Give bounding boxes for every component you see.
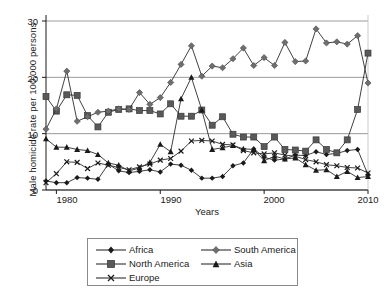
series-asia <box>43 74 371 180</box>
legend-label-south-america: South America <box>234 244 296 255</box>
south-america-series-icon <box>201 244 231 256</box>
legend-item-europe[interactable]: Europe <box>96 271 160 284</box>
chart-root: Male homicide rate per 100,000 persons Y… <box>0 0 384 292</box>
legend-label-africa: Africa <box>129 244 153 255</box>
asia-series-icon <box>201 258 231 270</box>
legend-item-africa[interactable]: Africa <box>96 243 153 256</box>
legend-item-north-america[interactable]: North America <box>96 257 189 270</box>
africa-series-icon <box>96 244 126 256</box>
europe-series-icon <box>96 272 126 284</box>
legend-item-south-america[interactable]: South America <box>201 243 296 256</box>
legend: Africa North America Europe South Americ… <box>87 238 298 286</box>
series-south-america <box>43 26 371 132</box>
north-america-series-icon <box>96 258 126 270</box>
legend-label-europe: Europe <box>129 272 160 283</box>
series-north-america <box>43 50 371 156</box>
legend-item-asia[interactable]: Asia <box>201 257 252 270</box>
legend-label-north-america: North America <box>129 258 189 269</box>
legend-label-asia: Asia <box>234 258 252 269</box>
